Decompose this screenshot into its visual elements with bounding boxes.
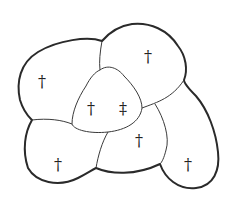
region-top-right-symbol: † [144,47,152,66]
region-bottom-right-symbol: † [184,155,192,174]
region-center-right-symbol: ‡ [119,99,127,118]
region-diagram: † † † ‡ † † † [0,0,232,204]
region-top-left-symbol: † [38,72,46,91]
region-center-left-symbol: † [87,99,95,118]
region-middle-lower-symbol: † [135,131,143,150]
region-bottom-left-symbol: † [54,155,62,174]
